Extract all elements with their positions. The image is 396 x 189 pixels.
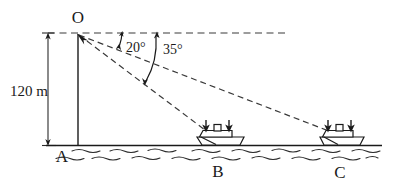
ship-icon-B: [197, 120, 244, 145]
depression-angle-diagram: 120 m 20° 35°: [0, 0, 396, 189]
ray-O-to-B: [79, 35, 213, 136]
ray-O-to-C: [79, 35, 334, 133]
figure-canvas: 120 m 20° 35°: [0, 0, 396, 189]
angle-label-20: 20°: [126, 40, 146, 55]
point-label-C: C: [334, 163, 345, 182]
ship-icon-C: [320, 120, 364, 145]
angle-marker-35: 35°: [141, 32, 182, 86]
angle-label-35: 35°: [163, 42, 183, 57]
dimension-line-120m: 120 m: [10, 33, 56, 147]
water-waves: [56, 149, 380, 160]
point-label-A: A: [56, 147, 69, 166]
point-label-O: O: [72, 8, 84, 27]
point-label-B: B: [212, 162, 223, 181]
dimension-label-120m: 120 m: [10, 83, 48, 99]
